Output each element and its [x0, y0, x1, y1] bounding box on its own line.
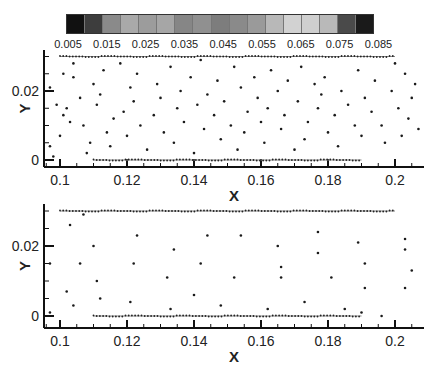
boundary-particle: [307, 316, 309, 318]
data-point: [132, 262, 135, 265]
boundary-particle: [269, 160, 271, 162]
boundary-particle: [312, 56, 314, 58]
boundary-particle: [105, 315, 107, 317]
data-point: [323, 76, 326, 79]
boundary-particle: [379, 211, 381, 213]
boundary-particle: [217, 316, 219, 318]
boundary-particle: [150, 159, 152, 161]
boundary-particle: [345, 315, 347, 317]
boundary-particle: [232, 211, 234, 213]
boundary-particle: [306, 55, 308, 57]
boundary-particle: [242, 56, 244, 58]
boundary-particle: [280, 211, 282, 213]
boundary-particle: [88, 56, 90, 58]
boundary-particle: [246, 315, 248, 317]
data-point: [397, 107, 400, 110]
data-point: [146, 148, 149, 151]
boundary-particle: [152, 210, 154, 212]
boundary-particle: [229, 211, 231, 213]
data-point: [183, 121, 186, 124]
boundary-particle: [149, 210, 151, 212]
boundary-particle: [222, 210, 224, 212]
boundary-particle: [288, 315, 290, 317]
data-point: [179, 90, 182, 93]
boundary-particle: [126, 210, 128, 212]
boundary-particle: [360, 56, 362, 58]
data-point: [92, 83, 95, 86]
data-point: [276, 90, 279, 93]
boundary-particle: [248, 210, 250, 212]
data-point: [203, 128, 206, 131]
data-point: [330, 276, 333, 279]
boundary-particle: [382, 56, 384, 58]
data-point: [260, 121, 263, 124]
boundary-particle: [115, 160, 117, 162]
data-point: [236, 148, 239, 151]
data-point: [136, 234, 139, 237]
boundary-particle: [72, 210, 74, 212]
data-point: [417, 128, 420, 131]
boundary-particle: [296, 210, 298, 212]
data-point: [364, 287, 367, 290]
data-point: [72, 62, 75, 65]
x-tick-label: 0.12: [113, 333, 140, 349]
boundary-particle: [174, 56, 176, 58]
boundary-particle: [190, 56, 192, 58]
boundary-particle: [238, 56, 240, 58]
boundary-particle: [146, 56, 148, 58]
boundary-particle: [93, 159, 95, 161]
boundary-particle: [259, 316, 261, 318]
boundary-particle: [160, 316, 162, 318]
boundary-particle: [341, 55, 343, 57]
boundary-particle: [296, 55, 298, 57]
x-tick-label: 0.14: [180, 333, 207, 349]
boundary-particle: [310, 160, 312, 162]
boundary-particle: [142, 56, 144, 58]
boundary-particle: [109, 316, 111, 318]
boundary-particle: [227, 315, 229, 317]
data-point: [112, 117, 115, 120]
boundary-particle: [224, 315, 226, 317]
boundary-particle: [200, 55, 202, 57]
data-point: [317, 107, 320, 110]
boundary-particle: [141, 159, 143, 161]
boundary-particle: [59, 55, 61, 57]
boundary-particle: [213, 56, 215, 58]
boundary-particle: [354, 210, 356, 212]
boundary-particle: [349, 315, 351, 317]
boundary-particle: [174, 210, 176, 212]
boundary-particle: [366, 56, 368, 58]
boundary-particle: [392, 210, 394, 212]
boundary-particle: [389, 210, 391, 212]
data-point: [82, 213, 85, 216]
boundary-particle: [323, 315, 325, 317]
data-point: [176, 107, 179, 110]
boundary-particle: [240, 159, 242, 161]
boundary-particle: [245, 55, 247, 57]
data-point: [69, 121, 72, 124]
boundary-particle: [285, 315, 287, 317]
boundary-particle: [94, 56, 96, 58]
boundary-particle: [197, 210, 199, 212]
boundary-particle: [69, 210, 71, 212]
data-point: [380, 315, 383, 318]
data-point: [99, 297, 102, 300]
data-point: [280, 128, 283, 131]
boundary-particle: [155, 210, 157, 212]
boundary-particle: [240, 315, 242, 317]
data-point: [374, 79, 377, 82]
boundary-particle: [245, 210, 247, 212]
boundary-particle: [190, 211, 192, 213]
boundary-particle: [347, 55, 349, 57]
boundary-particle: [265, 160, 267, 162]
boundary-particle: [342, 159, 344, 161]
boundary-particle: [301, 315, 303, 317]
data-point: [139, 124, 142, 127]
boundary-particle: [98, 56, 100, 58]
boundary-particle: [242, 211, 244, 213]
boundary-particle: [251, 55, 253, 57]
boundary-particle: [313, 160, 315, 162]
boundary-particle: [91, 211, 93, 213]
boundary-particle: [182, 315, 184, 317]
data-point: [266, 308, 269, 311]
